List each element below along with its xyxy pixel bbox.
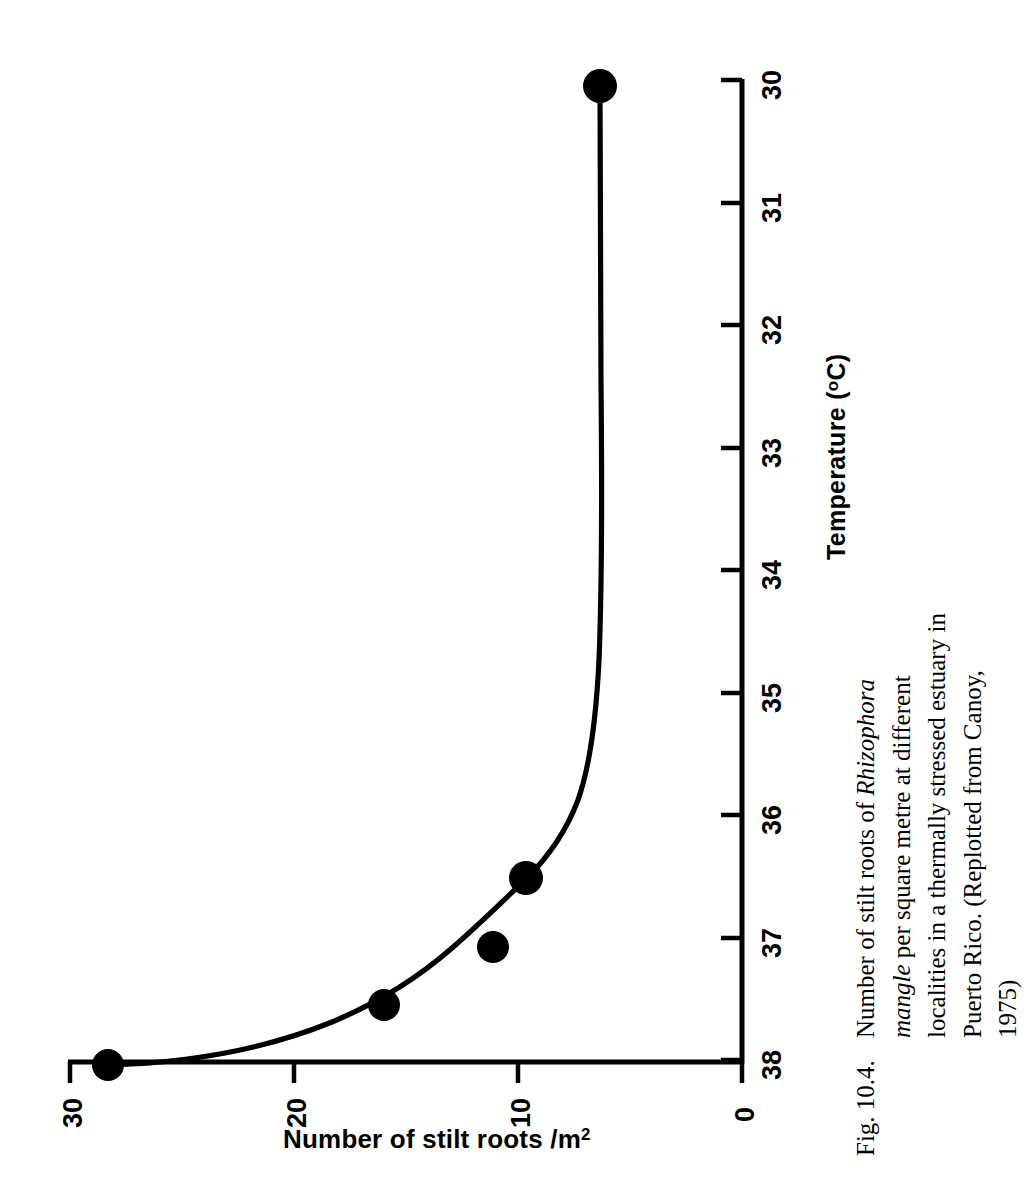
data-point <box>368 989 400 1021</box>
roots-tick-marks <box>70 1062 742 1083</box>
figure-number: Fig. 10.4. <box>848 1060 884 1156</box>
temperature-tick-label-30: 30 <box>757 70 788 100</box>
squared-symbol: 2 <box>581 1125 591 1144</box>
temperature-axis-title: Temperature (oC) <box>822 354 851 560</box>
roots-axis-title: Number of stilt roots /m2 <box>283 1124 591 1155</box>
chart-plot-area <box>0 0 780 1186</box>
data-point <box>509 861 543 895</box>
temperature-tick-label-33: 33 <box>757 438 788 468</box>
temperature-tick-label-35: 35 <box>757 683 788 713</box>
caption-line1-pre: Number of stilt roots of <box>852 796 879 1038</box>
temperature-axis-title-text: Temperature ( <box>822 391 850 560</box>
temperature-tick-label-31: 31 <box>757 193 788 223</box>
temperature-tick-label-36: 36 <box>757 805 788 835</box>
temperature-tick-label-32: 32 <box>757 315 788 345</box>
data-point-group <box>92 69 617 1081</box>
data-point <box>583 69 617 103</box>
caption-line1-post: per square metre at different <box>888 675 915 964</box>
roots-axis-title-text: Number of stilt roots /m <box>283 1124 581 1154</box>
temperature-axis-title-tail: C) <box>822 354 850 381</box>
roots-tick-label-0: 0 <box>730 1107 761 1122</box>
degree-symbol: o <box>823 381 842 392</box>
temperature-tick-label-38: 38 <box>757 1050 788 1080</box>
roots-tick-label-30: 30 <box>58 1098 89 1128</box>
temperature-tick-label-34: 34 <box>757 560 788 590</box>
fitted-curve <box>108 88 602 1065</box>
data-point <box>92 1049 124 1081</box>
data-point <box>477 931 509 963</box>
temperature-tick-label-37: 37 <box>757 928 788 958</box>
temperature-tick-marks <box>721 80 742 1060</box>
figure-caption-text: Number of stilt roots of Rhizophora mang… <box>848 608 1026 1038</box>
